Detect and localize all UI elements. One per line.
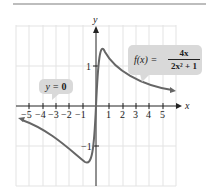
svg-text:5: 5 <box>160 109 165 120</box>
svg-text:−2: −2 <box>61 109 72 120</box>
svg-text:x: x <box>184 100 190 111</box>
svg-text:−4: −4 <box>35 109 46 120</box>
svg-text:1: 1 <box>106 109 111 120</box>
svg-text:3: 3 <box>133 109 138 120</box>
svg-text:2: 2 <box>120 109 125 120</box>
svg-text:−1: −1 <box>81 141 92 152</box>
svg-text:1: 1 <box>86 61 91 72</box>
svg-text:y: y <box>92 14 98 25</box>
function-label: f(x) = 4x2x² + 1 <box>128 45 202 75</box>
asymptote-label: y = 0 <box>39 79 73 94</box>
svg-text:4: 4 <box>146 109 151 120</box>
svg-text:−1: −1 <box>75 109 86 120</box>
graph: x y −5−4−3−2−1 12345 1−1 <box>0 0 213 189</box>
svg-text:−3: −3 <box>48 109 59 120</box>
